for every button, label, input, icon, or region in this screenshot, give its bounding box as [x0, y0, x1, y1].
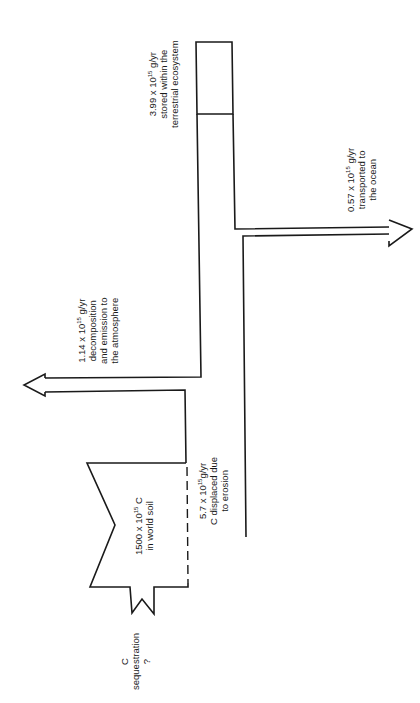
terrestrial-storage-box: [196, 42, 233, 114]
atmosphere-emission-label: 1.14 x 1015 g/yr decomposition and emiss…: [76, 297, 120, 364]
atmosphere-arrow-head: [24, 374, 45, 396]
erosion-label: 5.7 x 1015g/yr C displaced due to erosio…: [197, 457, 230, 525]
soil-pool-dashed-edge: [187, 467, 188, 583]
sequestration-label: C sequestration ?: [119, 633, 152, 690]
trunk-left-wall: [45, 114, 201, 378]
ocean-arrow-lower-edge: [243, 234, 389, 537]
terrestrial-storage-label: 3.99 x 1015 g/yr stored within the terre…: [147, 40, 180, 128]
atmosphere-arrow-lower-edge: [45, 390, 186, 463]
ocean-transport-label: 0.57 x 1015 g/yr transported to the ocea…: [345, 148, 378, 212]
ocean-arrow-head: [389, 220, 412, 246]
flow-diagram: [0, 0, 420, 703]
soil-pool-label: 1500 x 1015 C in world soil: [133, 497, 155, 555]
